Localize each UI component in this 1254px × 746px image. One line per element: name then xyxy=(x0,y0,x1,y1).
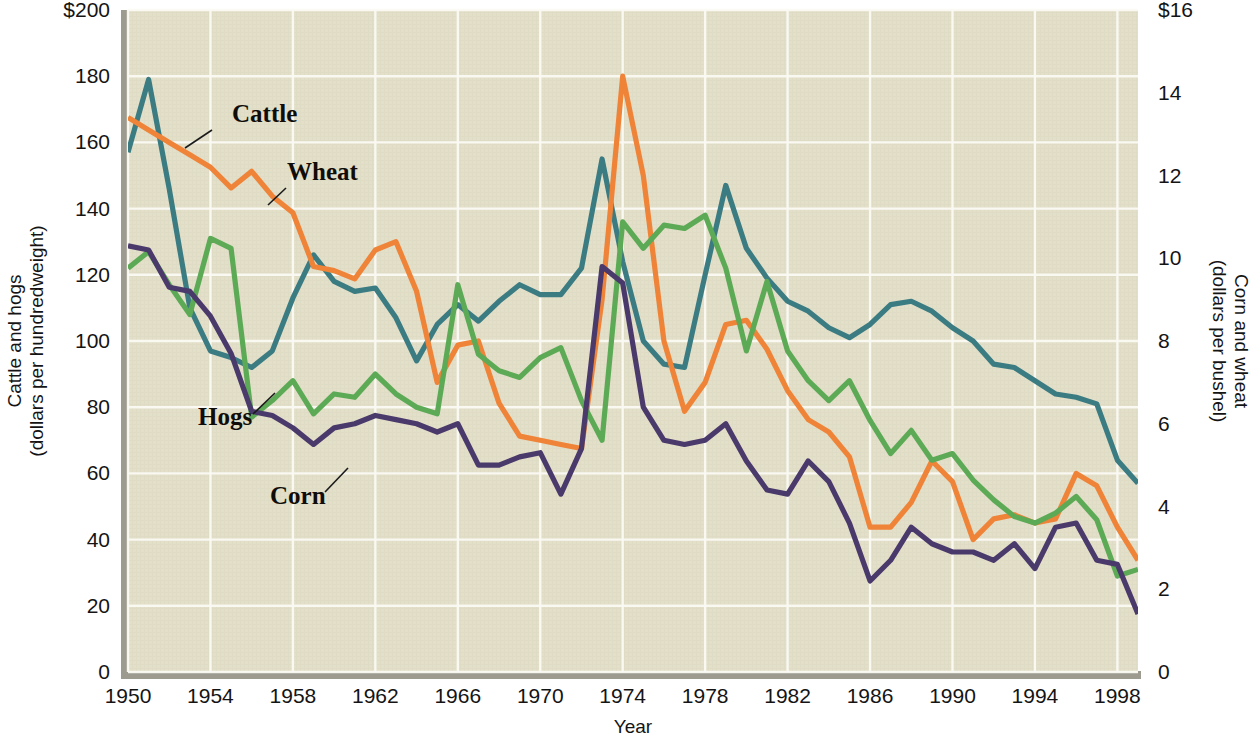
series-label-cattle: Cattle xyxy=(232,100,297,127)
x-tick-label-1986: 1986 xyxy=(847,684,894,707)
right-tick-label-10: 10 xyxy=(1158,246,1181,269)
left-tick-label-80: 80 xyxy=(87,395,110,418)
x-tick-label-1982: 1982 xyxy=(764,684,811,707)
left-tick-label-120: 120 xyxy=(75,263,110,286)
right-axis-ticks: 02468101214$16 xyxy=(1158,0,1193,683)
x-tick-label-1954: 1954 xyxy=(187,684,234,707)
left-tick-label-60: 60 xyxy=(87,461,110,484)
left-tick-label-0: 0 xyxy=(98,660,110,683)
left-axis-title-line2: (dollars per hundredweight) xyxy=(26,225,47,456)
series-label-hogs: Hogs xyxy=(198,403,252,430)
x-axis-ticks: 1950195419581962196619701974197819821986… xyxy=(105,684,1141,707)
left-tick-label-40: 40 xyxy=(87,528,110,551)
left-tick-label-140: 140 xyxy=(75,197,110,220)
x-tick-label-1978: 1978 xyxy=(682,684,729,707)
right-tick-label-14: 14 xyxy=(1158,81,1182,104)
right-tick-label-8: 8 xyxy=(1158,329,1170,352)
left-tick-label-160: 160 xyxy=(75,130,110,153)
x-tick-label-1998: 1998 xyxy=(1094,684,1141,707)
left-tick-label-100: 100 xyxy=(75,329,110,352)
series-label-corn: Corn xyxy=(270,482,326,509)
right-axis-title-line1: Corn and wheat xyxy=(1231,274,1252,409)
right-tick-label-0: 0 xyxy=(1158,660,1170,683)
x-tick-label-1962: 1962 xyxy=(352,684,399,707)
series-label-wheat: Wheat xyxy=(287,158,359,185)
price-trends-chart: 020406080100120140160180$200 02468101214… xyxy=(0,0,1254,746)
left-tick-label-200: $200 xyxy=(63,0,110,21)
right-tick-label-12: 12 xyxy=(1158,164,1181,187)
right-axis-title-line2: (dollars per bushel) xyxy=(1209,260,1230,423)
right-tick-label-2: 2 xyxy=(1158,577,1170,600)
x-tick-label-1950: 1950 xyxy=(105,684,152,707)
right-tick-label-6: 6 xyxy=(1158,412,1170,435)
chart-canvas: 020406080100120140160180$200 02468101214… xyxy=(0,0,1254,746)
left-axis-ticks: 020406080100120140160180$200 xyxy=(63,0,110,683)
x-axis-title: Year xyxy=(614,716,653,737)
left-tick-label-20: 20 xyxy=(87,594,110,617)
left-axis-title-line1: Cattle and hogs xyxy=(4,274,25,407)
right-tick-label-16: $16 xyxy=(1158,0,1193,21)
x-tick-label-1974: 1974 xyxy=(599,684,646,707)
left-tick-label-180: 180 xyxy=(75,64,110,87)
x-tick-label-1994: 1994 xyxy=(1012,684,1059,707)
x-tick-label-1966: 1966 xyxy=(434,684,481,707)
right-tick-label-4: 4 xyxy=(1158,495,1170,518)
x-tick-label-1970: 1970 xyxy=(517,684,564,707)
x-tick-label-1958: 1958 xyxy=(270,684,317,707)
x-tick-label-1990: 1990 xyxy=(929,684,976,707)
